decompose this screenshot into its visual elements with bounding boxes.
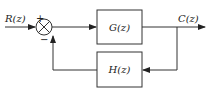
minus-sign: − [40, 34, 48, 45]
input-label: R(z) [4, 13, 26, 24]
feedback-block-label: H(z) [108, 64, 131, 75]
feedback-return-line [53, 36, 97, 70]
forward-block-label: G(z) [109, 22, 130, 33]
output-label: C(z) [178, 13, 199, 24]
feedback-branch-line [143, 27, 177, 70]
plus-sign: + [36, 13, 44, 24]
block-diagram: R(z) + − G(z) C(z) H(z) [0, 0, 215, 95]
